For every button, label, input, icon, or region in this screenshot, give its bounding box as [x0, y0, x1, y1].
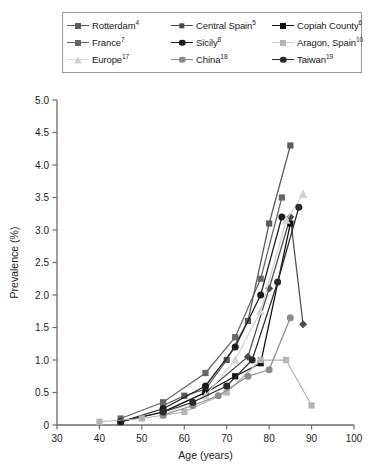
y-tick-label: 4.0 [35, 160, 49, 171]
x-tick-label: 50 [136, 433, 148, 444]
y-tick-label: 5.0 [35, 95, 49, 106]
data-point [232, 344, 239, 351]
series-china [160, 314, 294, 419]
data-point [189, 399, 196, 406]
series-line [163, 318, 290, 416]
series-line [163, 194, 303, 415]
data-point [257, 292, 264, 299]
x-tick-label: 60 [179, 433, 191, 444]
series-line [163, 207, 299, 412]
x-axis-title: Age (years) [178, 449, 232, 461]
data-point [244, 373, 251, 380]
data-point [279, 194, 285, 200]
y-tick-label: 3.0 [35, 225, 49, 236]
y-tick-label: 3.5 [35, 192, 49, 203]
y-tick-label: 1.5 [35, 322, 49, 333]
data-point [202, 370, 208, 376]
data-point [299, 320, 307, 328]
chart-svg: 00.51.01.52.02.53.03.54.04.55.0304050607… [0, 0, 380, 475]
data-point [202, 383, 209, 390]
series-layer [96, 142, 314, 425]
x-tick-label: 80 [264, 433, 276, 444]
data-point [287, 142, 293, 148]
series-france [118, 194, 285, 421]
y-tick-label: 4.5 [35, 127, 49, 138]
data-point [232, 373, 238, 379]
data-point [96, 419, 102, 425]
y-axis-title: Prevalence (%) [8, 227, 20, 299]
data-point [160, 399, 166, 405]
series-central-spain [117, 213, 307, 426]
data-point [274, 279, 281, 286]
data-point [231, 356, 240, 364]
y-tick-label: 0 [43, 420, 49, 431]
plot-area: 00.51.01.52.02.53.03.54.04.55.0304050607… [0, 0, 380, 475]
y-tick-label: 0.5 [35, 387, 49, 398]
data-point [215, 392, 222, 399]
data-point [232, 334, 238, 340]
data-point [256, 307, 265, 315]
data-point [181, 409, 187, 415]
data-point [295, 204, 302, 211]
x-tick-label: 70 [221, 433, 233, 444]
data-point [266, 366, 273, 373]
data-point [139, 415, 145, 421]
series-europe [159, 190, 308, 419]
y-tick-label: 2.5 [35, 257, 49, 268]
y-tick-label: 1.0 [35, 355, 49, 366]
data-point [287, 314, 294, 321]
x-tick-label: 90 [306, 433, 318, 444]
data-point [258, 276, 264, 282]
x-tick-label: 100 [346, 433, 363, 444]
series-taiwan [160, 204, 303, 416]
data-point [308, 402, 314, 408]
axes-layer [53, 100, 355, 430]
data-point [249, 357, 256, 364]
data-point [299, 190, 308, 198]
x-tick-label: 40 [94, 433, 106, 444]
y-tick-label: 2.0 [35, 290, 49, 301]
series-line [121, 198, 282, 419]
figure-container: Rotterdam4 Central Spain5 Copiah County6 [0, 0, 380, 475]
series-line [121, 217, 303, 422]
data-point [283, 357, 289, 363]
data-point [266, 220, 272, 226]
data-point [117, 418, 124, 425]
data-point [223, 383, 230, 390]
data-point [258, 357, 264, 363]
x-tick-label: 30 [51, 433, 63, 444]
data-point [160, 409, 167, 416]
